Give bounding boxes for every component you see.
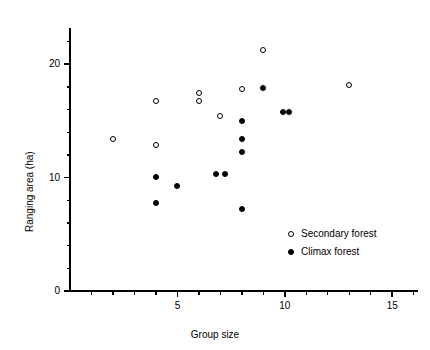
- legend-label: Secondary forest: [301, 228, 377, 239]
- legend-item: Climax forest: [288, 246, 359, 257]
- tick-labels-layer: 5101501020: [0, 0, 430, 350]
- filled-circle-icon: [288, 249, 294, 255]
- scatter-plot-figure: 5101501020 Group size Ranging area (ha) …: [0, 0, 430, 350]
- x-tick-label: 5: [167, 300, 187, 311]
- y-tick-label: 10: [36, 172, 60, 183]
- y-tick-label: 20: [36, 58, 60, 69]
- open-circle-icon: [288, 231, 294, 237]
- y-axis-title: Ranging area (ha): [24, 151, 35, 232]
- legend-label: Climax forest: [301, 246, 359, 257]
- x-tick-label: 15: [382, 300, 402, 311]
- legend-item: Secondary forest: [288, 228, 377, 239]
- y-tick-label: 0: [36, 285, 60, 296]
- x-tick-label: 10: [275, 300, 295, 311]
- x-axis-title: Group size: [0, 329, 430, 340]
